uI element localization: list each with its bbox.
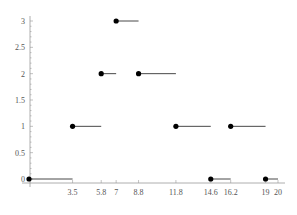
y-tick-label: 0	[21, 175, 25, 184]
ticks: 00.511.522.533.55.878.811.814.616.21920	[15, 17, 282, 197]
y-tick-label: 1	[21, 122, 25, 131]
x-tick-label: 5.8	[96, 188, 106, 197]
y-tick-label: 3	[21, 17, 25, 26]
x-tick-label: 11.8	[169, 188, 183, 197]
y-tick-label: 2.5	[15, 43, 25, 52]
y-tick-label: 1.5	[15, 96, 25, 105]
step-point	[263, 176, 268, 181]
y-tick-label: 2	[21, 70, 25, 79]
x-tick-label: 19	[262, 188, 270, 197]
step-point	[99, 71, 104, 76]
step-chart: 00.511.522.533.55.878.811.814.616.21920	[0, 0, 297, 215]
axes	[22, 16, 285, 187]
step-point	[114, 18, 119, 23]
x-tick-label: 8.8	[134, 188, 144, 197]
y-tick-label: 0.5	[15, 149, 25, 158]
step-point	[228, 124, 233, 129]
step-point	[173, 124, 178, 129]
step-point	[208, 176, 213, 181]
x-tick-label: 14.6	[204, 188, 218, 197]
x-tick-label: 16.2	[224, 188, 238, 197]
x-tick-label: 3.5	[68, 188, 78, 197]
step-point	[70, 124, 75, 129]
x-tick-label: 7	[114, 188, 118, 197]
x-tick-label: 20	[274, 188, 282, 197]
step-point	[26, 176, 31, 181]
step-point	[136, 71, 141, 76]
step-marks	[26, 18, 278, 181]
